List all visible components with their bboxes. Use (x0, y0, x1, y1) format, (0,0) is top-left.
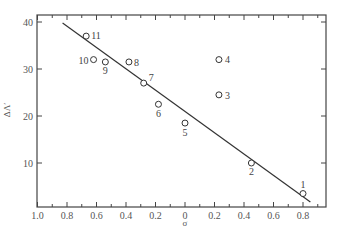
x-tick-label: 0.6 (90, 210, 103, 221)
data-point-marker (126, 59, 132, 65)
x-tick-label: 0.2 (149, 210, 162, 221)
data-point-marker (83, 33, 89, 39)
data-point-marker (91, 57, 97, 63)
x-tick-label: 0.8 (297, 210, 310, 221)
data-point-label: 4 (225, 54, 230, 65)
x-tick-label: 0.4 (238, 210, 251, 221)
x-tick-label: 1.0 (31, 210, 44, 221)
data-point-marker (300, 191, 306, 197)
data-points: 1234567891011 (79, 30, 306, 196)
scatter-chart: 1.00.80.60.40.200.20.40.60.8 10203040 12… (0, 0, 337, 238)
data-point-label: 10 (79, 55, 89, 66)
y-tick-label: 30 (23, 64, 33, 75)
plot-frame (37, 15, 326, 207)
data-point-marker (141, 80, 147, 86)
data-point-label: 1 (301, 179, 306, 190)
data-point-label: 5 (183, 127, 188, 138)
y-axis: 10203040 (23, 17, 326, 169)
x-axis-label: σ (183, 218, 188, 228)
data-point-marker (182, 120, 188, 126)
data-point-marker (155, 101, 161, 107)
data-point-label: 9 (103, 65, 108, 76)
data-point-label: 2 (249, 166, 254, 177)
fit-line (63, 23, 311, 202)
x-tick-label: 0.6 (267, 210, 280, 221)
data-point-marker (216, 57, 222, 63)
x-tick-label: 0.2 (208, 210, 221, 221)
data-point-label: 8 (134, 57, 139, 68)
x-axis: 1.00.80.60.40.200.20.40.60.8 (31, 15, 318, 221)
y-axis-label: ΔΛ′ (2, 103, 12, 117)
x-tick-label: 0.4 (120, 210, 133, 221)
y-tick-label: 10 (23, 158, 33, 169)
data-point-label: 7 (149, 72, 154, 83)
x-tick-label: 0.8 (61, 210, 74, 221)
data-point-label: 11 (91, 30, 101, 41)
data-point-label: 6 (156, 108, 161, 119)
data-point-label: 3 (225, 90, 230, 101)
data-point-marker (216, 92, 222, 98)
y-tick-label: 20 (23, 111, 33, 122)
y-tick-label: 40 (23, 17, 33, 28)
